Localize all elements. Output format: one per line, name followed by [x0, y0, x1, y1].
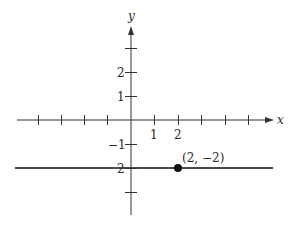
point-label: (2, −2): [182, 151, 224, 165]
point-2-minus-2: [174, 164, 182, 172]
y-axis-arrow-icon: [128, 26, 134, 35]
x-axis-label: x: [277, 113, 284, 127]
x-tick-label-1: 1: [150, 128, 158, 142]
x-tick-label-2: 2: [174, 128, 182, 142]
y-tick-label-1: 1: [117, 90, 125, 104]
y-tick-label-minus-1: −1: [108, 138, 126, 152]
y-tick-label-minus-2: 2: [117, 162, 125, 176]
y-axis-label: y: [127, 9, 135, 23]
coordinate-plot: y x 1 2 2 1 −1 2 (2, −2): [0, 0, 296, 229]
x-axis-arrow-icon: [265, 117, 274, 123]
y-tick-label-2: 2: [117, 66, 125, 80]
